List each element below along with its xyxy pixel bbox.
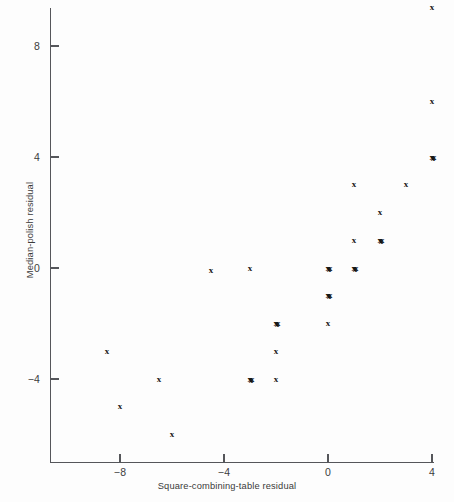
data-point: x — [350, 236, 359, 245]
data-point: x — [244, 375, 257, 384]
data-point: x — [270, 319, 283, 328]
scatter-plot-figure: −4048 −8−404 xxxxxxxxxxxxxxxxxxxxxx Squa… — [0, 0, 454, 502]
data-point: x — [272, 347, 281, 356]
data-point: x — [207, 266, 216, 275]
data-point: x — [246, 264, 255, 273]
data-point: x — [155, 375, 164, 384]
data-points-layer: xxxxxxxxxxxxxxxxxxxxxx — [0, 0, 454, 502]
y-axis-title: Median-polish residual — [25, 150, 35, 310]
data-point: x — [322, 291, 335, 300]
data-point: x — [350, 180, 359, 189]
data-point: x — [324, 319, 333, 328]
data-point: x — [116, 402, 125, 411]
data-point: x — [168, 430, 177, 439]
data-point: x — [426, 153, 439, 162]
data-point: x — [402, 180, 411, 189]
data-point: x — [428, 3, 437, 12]
data-point: x — [322, 264, 335, 273]
data-point: x — [348, 264, 361, 273]
data-point: x — [374, 236, 387, 245]
data-point: x — [272, 375, 281, 384]
x-axis-title: Square-combining-table residual — [0, 481, 454, 491]
data-point: x — [428, 97, 437, 106]
data-point: x — [376, 208, 385, 217]
data-point: x — [103, 347, 112, 356]
